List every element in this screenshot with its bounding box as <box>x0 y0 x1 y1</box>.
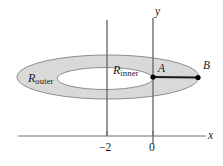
label-r-inner: Rinner <box>113 64 139 78</box>
point-b-marker <box>195 75 200 80</box>
label-point-b: B <box>203 60 210 72</box>
point-a-marker <box>150 74 155 79</box>
x-tick-label-zero: 0 <box>149 142 155 154</box>
geometry-figure: Router Rinner A B y x −2 0 <box>0 0 223 166</box>
x-tick-label-minus-2: −2 <box>99 142 111 154</box>
label-r-outer: Router <box>28 72 54 86</box>
segment-ab <box>153 77 198 78</box>
label-r-inner-subscript: inner <box>120 68 138 78</box>
label-r-outer-subscript: outer <box>35 76 53 86</box>
label-axis-y: y <box>155 6 160 18</box>
label-point-a: A <box>158 63 165 75</box>
label-axis-x: x <box>208 130 213 142</box>
